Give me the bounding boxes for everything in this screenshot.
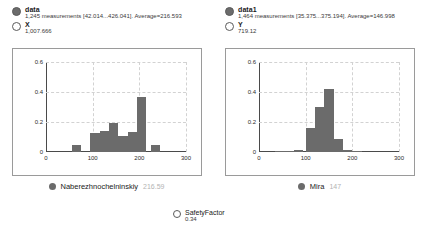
footer-series-name: Naberezhnochelninskiy: [61, 182, 139, 191]
x-axis-tick-label: 100: [88, 155, 98, 161]
variable-marker-icon: [12, 22, 21, 31]
histogram-bar: [315, 107, 324, 152]
gridline-horizontal: [46, 92, 186, 93]
histogram-bar: [343, 150, 352, 152]
y-axis-tick-label: 0.2: [248, 119, 256, 125]
y-axis-line: [46, 62, 47, 152]
x-axis-tick-label: 300: [394, 155, 404, 161]
histogram-bar: [109, 123, 118, 152]
variable-text-group: Y 719.12: [238, 21, 256, 35]
variable-marker-icon: [225, 22, 234, 31]
histogram-bar: [100, 131, 109, 152]
safety-factor-block[interactable]: SafetyFactor 0.34: [173, 209, 225, 223]
panel-left: data 1,245 measurements [42.014...426.04…: [0, 0, 213, 190]
legend-row-variable[interactable]: X 1,007.666: [12, 21, 212, 35]
histogram-plot-left: 00.20.40.60100200300: [46, 62, 186, 152]
y-axis-tick-label: 0.6: [35, 59, 43, 65]
y-axis-tick-label: 0: [40, 149, 43, 155]
legend-row-variable[interactable]: Y 719.12: [225, 21, 425, 35]
legend-row-series[interactable]: data 1,245 measurements [42.014...426.04…: [12, 6, 212, 20]
y-axis-tick-label: 0.2: [35, 119, 43, 125]
histogram-bar: [90, 133, 99, 153]
footer-series-dot-icon: [298, 183, 305, 190]
variable-label: X: [25, 21, 52, 28]
legend-text-group: data 1,245 measurements [42.014...426.04…: [25, 6, 182, 20]
footer-series-value: 216.59: [143, 183, 164, 190]
safety-factor-label: SafetyFactor: [185, 209, 225, 216]
safety-factor-value: 0.34: [185, 216, 225, 222]
chart-footer-left[interactable]: Naberezhnochelninskiy 216.59: [0, 182, 213, 191]
histogram-bar: [324, 89, 333, 152]
x-axis-tick-label: 0: [44, 155, 47, 161]
histogram-bar: [352, 151, 361, 152]
footer-series-name: Mira: [310, 182, 325, 191]
x-axis-tick-label: 200: [134, 155, 144, 161]
gridline-horizontal: [259, 62, 399, 63]
y-axis-line: [259, 62, 260, 152]
safety-factor-text-group: SafetyFactor 0.34: [185, 209, 225, 223]
chart-footer-right[interactable]: Mira 147: [213, 182, 426, 191]
series-summary: 1,464 measurements [35.375...375.194]. A…: [238, 13, 395, 19]
histogram-plot-right: 00.20.40.60100200300: [259, 62, 399, 152]
y-axis-tick-label: 0.6: [248, 59, 256, 65]
series-summary: 1,245 measurements [42.014...426.041]. A…: [25, 13, 182, 19]
series-marker-icon: [12, 7, 21, 16]
histogram-bar: [294, 150, 303, 152]
series-name: data1: [238, 6, 395, 13]
legend-text-group: data1 1,464 measurements [35.375...375.1…: [238, 6, 395, 20]
histogram-bar: [128, 132, 137, 152]
histogram-bar: [306, 128, 315, 152]
histogram-bar: [275, 151, 284, 152]
variable-value: 1,007.666: [25, 28, 52, 34]
safety-factor-marker-icon: [173, 210, 181, 218]
variable-value: 719.12: [238, 28, 256, 34]
histogram-frame-right: 00.20.40.60100200300: [225, 48, 415, 176]
histogram-bar: [285, 151, 294, 152]
gridline-vertical: [352, 62, 353, 152]
gridline-horizontal: [46, 62, 186, 63]
histogram-frame-left: 00.20.40.60100200300: [12, 48, 202, 176]
gridline-vertical: [399, 62, 400, 152]
histogram-bar: [118, 136, 127, 152]
series-name: data: [25, 6, 182, 13]
legend-row-series[interactable]: data1 1,464 measurements [35.375...375.1…: [225, 6, 425, 20]
y-axis-tick-label: 0.4: [35, 89, 43, 95]
legend-header-right: data1 1,464 measurements [35.375...375.1…: [225, 6, 425, 35]
histogram-bar: [137, 97, 146, 152]
footer-series-value: 147: [329, 183, 341, 190]
y-axis-tick-label: 0: [253, 149, 256, 155]
variable-text-group: X 1,007.666: [25, 21, 52, 35]
x-axis-tick-label: 300: [181, 155, 191, 161]
x-axis-tick-label: 100: [301, 155, 311, 161]
legend-header-left: data 1,245 measurements [42.014...426.04…: [12, 6, 212, 35]
histogram-bar: [72, 145, 81, 153]
series-marker-icon: [225, 7, 234, 16]
variable-label: Y: [238, 21, 256, 28]
y-axis-tick-label: 0.4: [248, 89, 256, 95]
histogram-bar: [334, 139, 343, 152]
panel-right: data1 1,464 measurements [35.375...375.1…: [213, 0, 426, 190]
x-axis-tick-label: 0: [257, 155, 260, 161]
x-axis-tick-label: 200: [347, 155, 357, 161]
histogram-bar: [151, 145, 160, 153]
gridline-vertical: [186, 62, 187, 152]
footer-series-dot-icon: [49, 183, 56, 190]
